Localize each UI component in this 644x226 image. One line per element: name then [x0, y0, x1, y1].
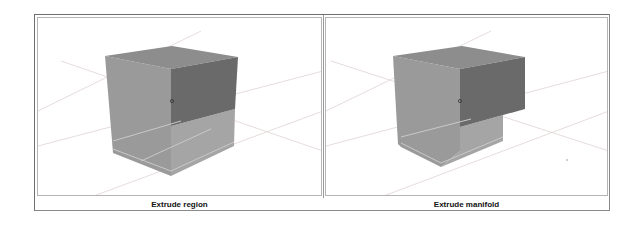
viewport-extrude-manifold[interactable] [325, 17, 608, 196]
cube-extrude-region-illustration [38, 18, 322, 196]
comparison-frame: Extrude region Extrude manifold [34, 14, 610, 211]
caption-extrude-manifold: Extrude manifold [325, 198, 608, 211]
caption-extrude-region: Extrude region [37, 198, 322, 211]
cube-extrude-manifold-illustration [326, 18, 608, 196]
cube-left-face [393, 56, 460, 167]
panel-divider [323, 15, 324, 198]
viewport-extrude-region[interactable] [37, 17, 322, 196]
grid-marker [566, 159, 568, 161]
extruded-face [460, 57, 525, 127]
